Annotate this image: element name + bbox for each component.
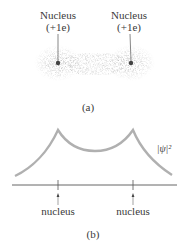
nucleus-left-label: Nucleus (+1e) bbox=[33, 9, 83, 33]
psi-squared-curve bbox=[15, 130, 172, 176]
arrow-left-icon bbox=[57, 193, 60, 205]
nucleus-axis-label-right: nucleus bbox=[111, 205, 155, 217]
psi-squared-label: |ψ|² bbox=[150, 143, 178, 155]
electron-cloud bbox=[34, 45, 155, 81]
nucleus-right-label: Nucleus (+1e) bbox=[104, 9, 154, 33]
electron-cloud-diagram bbox=[0, 0, 191, 251]
nucleus-right-charge: (+1e) bbox=[104, 21, 154, 33]
nucleus-right-title: Nucleus bbox=[104, 9, 154, 21]
nucleus-left-dot bbox=[56, 61, 60, 65]
nucleus-left-charge: (+1e) bbox=[33, 21, 83, 33]
nucleus-right-dot bbox=[129, 61, 133, 65]
nucleus-axis-label-left: nucleus bbox=[36, 205, 80, 217]
arrow-right-icon bbox=[132, 193, 135, 205]
nucleus-left-title: Nucleus bbox=[33, 9, 83, 21]
caption-a: (a) bbox=[78, 101, 98, 113]
caption-b: (b) bbox=[83, 228, 103, 240]
